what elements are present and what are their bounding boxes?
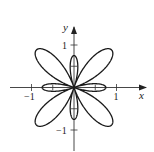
x-tick-label-neg: −1	[24, 91, 35, 102]
x-tick-label-pos: 1	[114, 91, 119, 102]
y-tick-label-neg: −1	[56, 125, 67, 136]
polar-plot: y x 1 −1 1 −1	[0, 0, 154, 152]
x-axis-label: x	[138, 89, 144, 101]
y-tick-label-pos: 1	[62, 40, 67, 51]
y-axis-label: y	[62, 21, 68, 33]
